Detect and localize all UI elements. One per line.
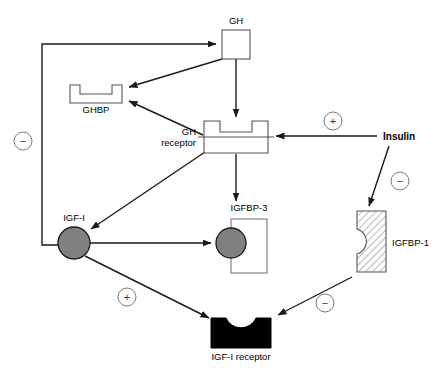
- sign-insulin-positive-gh-receptor: +: [324, 112, 342, 130]
- minus-glyph: −: [20, 135, 26, 147]
- minus-glyph: −: [322, 297, 328, 309]
- node-igfbp-1[interactable]: IGFBP-1: [357, 211, 429, 272]
- edge-gh-to-ghbp: [129, 59, 222, 87]
- edge-igfbp-1-to-igf-i-receptor: [278, 277, 352, 315]
- sign-insulin-negative-igfbp-1: −: [391, 172, 409, 190]
- sign-igfbp-1-negative-receptor: −: [316, 294, 334, 312]
- igf-i-receptor-label: IGF-I receptor: [211, 351, 270, 362]
- sign-negative-feedback-gh: −: [14, 132, 32, 150]
- plus-glyph: +: [124, 291, 130, 303]
- igfbp-3-label: IGFBP-3: [231, 202, 268, 213]
- node-ghbp[interactable]: GHBP: [70, 85, 122, 115]
- edge-insulin-to-igfbp-1: [369, 146, 389, 206]
- igfbp-3-bound-igf-circle[interactable]: [216, 228, 246, 258]
- igfbp-1-shape[interactable]: [357, 211, 386, 272]
- minus-glyph: −: [397, 175, 403, 187]
- gh-receptor-label-line1: GH: [182, 126, 196, 137]
- plus-glyph: +: [330, 115, 336, 127]
- edge-gh-receptor-to-igf-i: [91, 152, 205, 229]
- edge-igf-i-to-igf-i-receptor: [85, 256, 209, 318]
- gh-label: GH: [229, 15, 243, 26]
- node-gh-receptor[interactable]: GH receptor: [161, 121, 274, 153]
- igf-i-circle[interactable]: [58, 227, 90, 259]
- node-igf-i[interactable]: IGF-I: [58, 212, 90, 259]
- gh-receptor-label-line2: receptor: [161, 137, 196, 148]
- node-insulin[interactable]: Insulin: [383, 131, 415, 142]
- gh-box[interactable]: [222, 30, 250, 59]
- igf-i-label: IGF-I: [63, 212, 85, 223]
- diagram-canvas: GH GHBP GH receptor Insulin IGF-I IGFBP-…: [0, 0, 440, 372]
- node-igf-i-receptor[interactable]: IGF-I receptor: [211, 318, 271, 362]
- ghbp-label: GHBP: [83, 104, 110, 115]
- pathway-diagram: GH GHBP GH receptor Insulin IGF-I IGFBP-…: [0, 0, 440, 372]
- insulin-label: Insulin: [383, 131, 415, 142]
- ghbp-shape[interactable]: [70, 85, 122, 103]
- sign-igf-positive-receptor: +: [118, 288, 136, 306]
- igfbp-1-label: IGFBP-1: [392, 237, 429, 248]
- node-igfbp-3[interactable]: IGFBP-3: [216, 202, 267, 273]
- igf-i-receptor-shape[interactable]: [211, 318, 271, 348]
- node-gh[interactable]: GH: [222, 15, 250, 59]
